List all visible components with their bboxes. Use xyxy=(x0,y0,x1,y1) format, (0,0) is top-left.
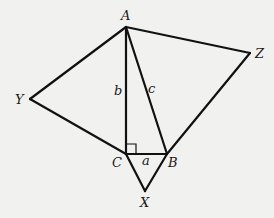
label-vertex-x: X xyxy=(139,195,150,210)
label-vertex-z: Z xyxy=(254,46,265,61)
label-side-b: b xyxy=(114,83,122,98)
label-vertex-b: B xyxy=(167,155,178,170)
label-vertex-a: A xyxy=(120,8,130,23)
label-vertex-y: Y xyxy=(15,92,25,107)
label-side-a: a xyxy=(142,153,150,168)
edge-zb xyxy=(167,53,250,154)
edge-az xyxy=(126,27,250,53)
edge-ay xyxy=(30,27,126,99)
edge-yc xyxy=(30,99,126,154)
geometry-diagram: A Z Y C B X b c a xyxy=(0,0,274,218)
edge-ab-side-c xyxy=(126,27,167,154)
right-angle-marker xyxy=(126,144,136,154)
label-side-c: c xyxy=(148,81,156,96)
label-vertex-c: C xyxy=(112,155,122,170)
